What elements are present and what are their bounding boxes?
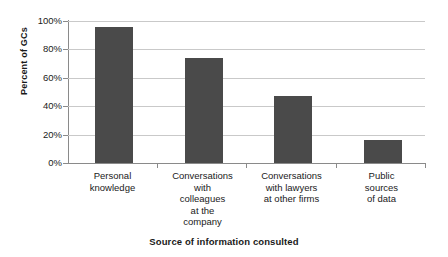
x-axis-title: Source of information consulted [0, 236, 448, 247]
x-category-line: at the [158, 205, 247, 217]
y-tick-label-40: 40% [18, 101, 62, 111]
y-tick-label-0: 0% [18, 158, 62, 168]
y-tick-label-60: 60% [18, 73, 62, 83]
gridline-100 [68, 21, 425, 22]
bar-chart: Percent of GCs 100% 80% 60% 40% 20% 0% [0, 0, 448, 257]
bar-conversations-lawyers [274, 96, 312, 163]
y-tick-label-20: 20% [18, 130, 62, 140]
x-tick-separator-4 [425, 163, 426, 168]
x-category-line: sources [337, 182, 426, 194]
x-tick-separator-3 [336, 163, 337, 168]
bar-conversations-colleagues [185, 58, 223, 163]
x-category-line: with [158, 182, 247, 194]
x-category-line: company [158, 216, 247, 228]
bar-personal-knowledge [95, 27, 133, 163]
x-category-label-personal-knowledge: Personal knowledge [68, 170, 157, 193]
x-axis-line [68, 163, 426, 164]
x-category-label-public-sources: Public sources of data [337, 170, 426, 205]
x-category-line: at other firms [247, 193, 336, 205]
x-category-line: of data [337, 193, 426, 205]
x-category-line: knowledge [68, 182, 157, 194]
x-category-label-conversations-lawyers: Conversations with lawyers at other firm… [247, 170, 336, 205]
x-category-line: Public [337, 170, 426, 182]
plot-area [68, 21, 425, 163]
x-category-line: Personal [68, 170, 157, 182]
x-category-line: colleagues [158, 193, 247, 205]
y-tick-label-80: 80% [18, 44, 62, 54]
x-category-line: Conversations [247, 170, 336, 182]
x-category-label-conversations-colleagues: Conversations with colleagues at the com… [158, 170, 247, 228]
bar-public-sources [364, 140, 402, 163]
x-category-line: with lawyers [247, 182, 336, 194]
x-tick-separator-2 [246, 163, 247, 168]
x-category-line: Conversations [158, 170, 247, 182]
y-tick-label-100: 100% [18, 16, 62, 26]
x-tick-separator-1 [157, 163, 158, 168]
